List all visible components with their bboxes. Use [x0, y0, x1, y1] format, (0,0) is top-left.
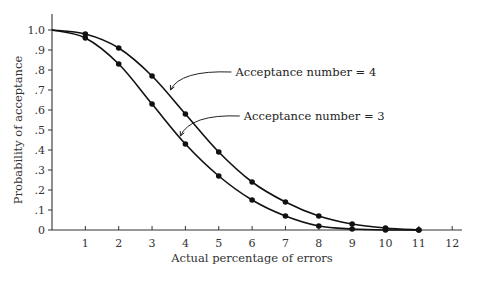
data-point-marker: [183, 111, 189, 117]
data-point-marker: [416, 227, 422, 233]
data-point-marker: [83, 35, 89, 41]
annotation-label: Acceptance number = 3: [243, 109, 385, 123]
x-tick-label: 4: [182, 237, 189, 250]
data-point-marker: [349, 226, 355, 232]
data-point-marker: [216, 149, 222, 155]
y-tick-label: .3: [35, 164, 46, 177]
x-tick-label: 1: [82, 237, 89, 250]
data-point-marker: [249, 197, 255, 203]
data-point-marker: [283, 213, 289, 219]
y-tick-label: .1: [35, 204, 46, 217]
data-point-marker: [383, 227, 389, 233]
y-tick-label: .9: [35, 44, 46, 57]
y-tick-label: .4: [35, 144, 46, 157]
data-point-marker: [116, 61, 122, 67]
chart: 0.1.2.3.4.5.6.7.8.91.0 123456789101112 A…: [0, 0, 478, 283]
x-tick-label: 7: [282, 237, 289, 250]
data-point-marker: [349, 221, 355, 227]
x-tick-label: 9: [349, 237, 356, 250]
annotations: Acceptance number = 4Acceptance number =…: [170, 65, 384, 136]
oc-curve-acceptance-3: [52, 30, 419, 230]
data-point-marker: [149, 73, 155, 79]
y-tick-label: 1.0: [28, 24, 46, 37]
y-tick-label: .2: [35, 184, 46, 197]
x-tick-label: 6: [249, 237, 256, 250]
x-tick-label: 3: [149, 237, 156, 250]
x-tick-label: 8: [315, 237, 322, 250]
x-tick-label: 2: [115, 237, 122, 250]
annotation-leader-line: [170, 72, 231, 90]
x-axis-title: Actual percentage of errors: [170, 251, 333, 265]
x-tick-label: 11: [412, 237, 426, 250]
y-tick-label: 0: [38, 224, 45, 237]
data-point-marker: [249, 179, 255, 185]
data-point-marker: [283, 199, 289, 205]
data-point-marker: [316, 213, 322, 219]
y-axis-title: Probability of acceptance: [11, 56, 25, 205]
data-point-marker: [183, 141, 189, 147]
y-tick-label: .5: [35, 124, 46, 137]
data-point-marker: [216, 173, 222, 179]
data-point-marker: [149, 101, 155, 107]
operating-characteristic-chart: 0.1.2.3.4.5.6.7.8.91.0 123456789101112 A…: [0, 0, 478, 283]
y-tick-label: .6: [35, 104, 46, 117]
y-axis-ticks: 0.1.2.3.4.5.6.7.8.91.0: [28, 24, 53, 237]
x-tick-label: 5: [215, 237, 222, 250]
data-point-marker: [316, 223, 322, 229]
x-tick-label: 10: [379, 237, 393, 250]
curves: [52, 30, 422, 233]
x-tick-label: 12: [445, 237, 459, 250]
annotation-label: Acceptance number = 4: [234, 65, 376, 79]
oc-curve-acceptance-4: [52, 30, 419, 230]
y-tick-label: .8: [35, 64, 46, 77]
y-tick-label: .7: [35, 84, 46, 97]
data-point-marker: [116, 45, 122, 51]
